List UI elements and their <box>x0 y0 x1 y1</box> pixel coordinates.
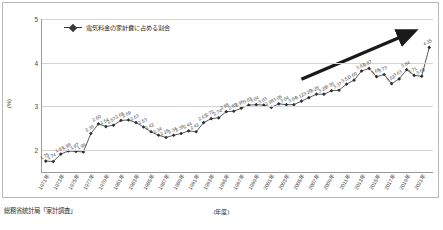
x-axis-tick-label: 2011年 <box>338 174 351 191</box>
data-point-marker <box>232 109 236 113</box>
chart-screenshot: 54321.751.741.911.981.971.962.382.602.54… <box>0 0 443 230</box>
data-point-marker <box>187 129 191 133</box>
gridline <box>42 150 433 151</box>
plot-area: 54321.751.741.911.981.971.962.382.602.54… <box>41 19 433 173</box>
x-axis-tick-label: 2015年 <box>368 174 381 191</box>
x-axis-tick-label: 2005年 <box>293 174 306 191</box>
x-axis-tick-label: 2019年 <box>398 174 411 191</box>
legend-label: 電気料金の家計費に占める割合 <box>86 23 170 32</box>
x-axis-tick-label: 1977年 <box>83 174 96 191</box>
data-point-marker <box>420 74 424 78</box>
x-axis-tick-label: 2001年 <box>263 174 276 191</box>
x-axis-tick-label: 1987年 <box>158 174 171 191</box>
x-axis-tick-label: 2003年 <box>278 174 291 191</box>
data-point-marker <box>307 96 311 100</box>
data-point-marker <box>172 133 176 137</box>
x-axis-tick-label: 1971年 <box>37 174 50 191</box>
x-axis-tick-label: 1981年 <box>113 174 126 191</box>
x-axis-tick-label: 1995年 <box>218 174 231 191</box>
data-point-marker <box>300 99 304 103</box>
x-axis-tick-label: 1991年 <box>188 174 201 191</box>
x-axis-tick-label: 1997年 <box>233 174 246 191</box>
data-point-marker <box>277 102 281 106</box>
y-axis-tick-label: 2 <box>34 147 38 154</box>
gridline <box>42 63 433 64</box>
y-axis-tick-label: 3 <box>34 103 38 110</box>
x-axis-tick-label: 1999年 <box>248 174 261 191</box>
data-series-line <box>42 19 433 172</box>
data-point-marker <box>209 117 213 121</box>
x-axis-tick-label: 1985年 <box>143 174 156 191</box>
chart-frame: 54321.751.741.911.981.971.962.382.602.54… <box>2 2 439 198</box>
x-axis-tick-label: 1979年 <box>98 174 111 191</box>
x-axis-tick-label: 1989年 <box>173 174 186 191</box>
x-axis-tick-label: 1975年 <box>68 174 81 191</box>
gridline <box>42 19 433 20</box>
x-axis-tick-label: 1993年 <box>203 174 216 191</box>
x-axis-tick-label: 2021年 <box>413 174 426 191</box>
x-axis-title: (年度) <box>0 207 443 216</box>
data-point-marker <box>330 89 334 93</box>
diamond-marker-icon <box>64 24 82 31</box>
data-point-marker <box>322 92 326 96</box>
x-axis-tick-label: 2007年 <box>308 174 321 191</box>
data-point-marker <box>104 125 108 129</box>
y-axis-tick-label: 5 <box>34 16 38 23</box>
x-axis-tick-label: 2009年 <box>323 174 336 191</box>
x-axis-tick-label: 2013年 <box>353 174 366 191</box>
chart-legend: 電気料金の家計費に占める割合 <box>61 21 175 34</box>
x-axis-tick-label: 2017年 <box>383 174 396 191</box>
data-point-marker <box>427 46 431 50</box>
y-axis-unit-label: (%) <box>6 99 12 108</box>
data-point-marker <box>179 132 183 136</box>
data-point-marker <box>164 136 168 140</box>
y-axis-tick-label: 4 <box>34 59 38 66</box>
x-axis-tick-label: 1983年 <box>128 174 141 191</box>
x-axis-tick-label: 1973年 <box>53 174 66 191</box>
data-point-marker <box>315 92 319 96</box>
